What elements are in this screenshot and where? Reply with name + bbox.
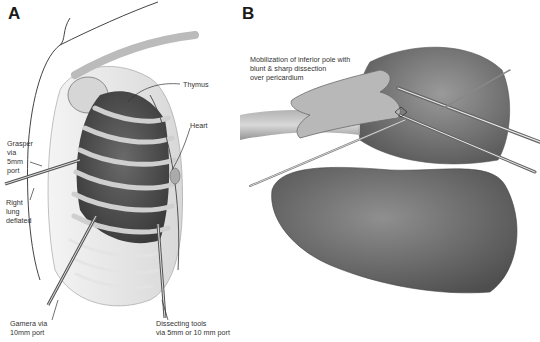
label-mobilization-inferior-pole: Mobilization of inferior pole with blunt… [250, 55, 350, 82]
panel-letter-a: A [8, 4, 20, 24]
label-thymus: Thymus [183, 80, 209, 89]
label-grasper-port: Grasper via 5mm port [7, 139, 33, 175]
panel-letter-b: B [242, 4, 254, 24]
chest-wall-illustration [0, 0, 250, 342]
label-camera-port: Gamera via 10mm port [10, 319, 47, 337]
panel-b-mobilization-view: B Mobilization of inferior pole with blu… [240, 0, 540, 342]
panel-a-thoracoscopic-view: A Thymus Heart Grasper via 5mm port Righ… [0, 0, 250, 342]
thymus-dissection-illustration [240, 0, 540, 342]
label-dissecting-tools: Dissecting tools via 5mm or 10 mm port [156, 319, 230, 337]
label-right-lung-deflated: Right lung deflated [6, 198, 32, 225]
label-heart: Heart [190, 121, 208, 130]
